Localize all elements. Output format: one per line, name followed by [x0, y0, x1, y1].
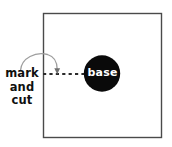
callout-line-1: mark — [3, 67, 41, 81]
diagram-canvas: mark and cut base — [0, 0, 172, 147]
callout-line-2: and — [3, 81, 41, 95]
mark-and-cut-label: mark and cut — [3, 67, 41, 108]
base-circle — [84, 55, 120, 91]
callout-line-3: cut — [3, 94, 41, 108]
